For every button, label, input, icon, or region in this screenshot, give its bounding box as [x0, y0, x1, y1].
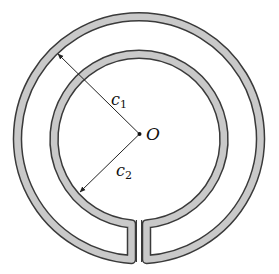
split-ring-diagram: O c1 c2	[0, 0, 279, 274]
ring-gap	[138, 214, 141, 266]
c1-label: c1	[111, 90, 127, 111]
c2-label: c2	[116, 161, 132, 182]
center-label: O	[146, 124, 160, 144]
c2-dimension-line	[80, 134, 140, 192]
center-point	[138, 132, 142, 136]
